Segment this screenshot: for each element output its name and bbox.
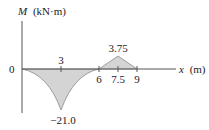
x-tick-label-6: 6	[96, 73, 102, 85]
negative-moment-area	[22, 69, 99, 110]
x-axis-label: x (m)	[178, 63, 206, 76]
max-moment-label: 3.75	[108, 42, 128, 54]
y-axis-label: M (kN·m)	[17, 5, 66, 18]
x-tick-label-9: 9	[134, 73, 140, 85]
min-moment-label: −21.0	[50, 114, 76, 126]
y-axis-unit: (kN·m)	[33, 5, 66, 18]
x-tick-label-3: 3	[58, 54, 64, 66]
x-axis-variable: x	[178, 63, 184, 75]
x-tick-label-7-5: 7.5	[111, 73, 125, 85]
origin-label: 0	[9, 63, 15, 75]
bending-moment-diagram: M (kN·m) x (m) 0 3 6 7.5 9 3.75 −21.0	[0, 0, 209, 130]
x-axis-unit: (m)	[190, 63, 206, 76]
y-axis-variable: M	[17, 5, 28, 17]
